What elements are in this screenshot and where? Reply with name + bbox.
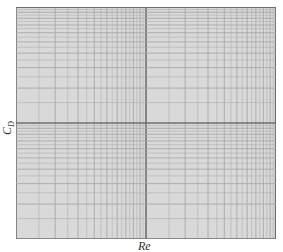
grid-lines: [16, 7, 276, 239]
y-axis-label: CD: [0, 121, 16, 135]
x-axis-label: Re: [138, 239, 151, 252]
log-log-grid: [16, 7, 276, 239]
